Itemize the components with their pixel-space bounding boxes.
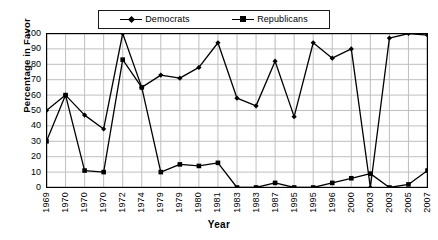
data-point-marker: [82, 168, 87, 173]
y-tick-label: 80: [19, 60, 41, 69]
data-point-marker: [349, 176, 354, 181]
data-point-marker: [197, 164, 202, 169]
data-point-marker: [101, 170, 106, 175]
data-point-marker: [234, 96, 239, 101]
chart-legend: Democrats Republicans: [98, 10, 330, 29]
x-tick-label: 1972: [118, 192, 127, 213]
data-point-marker: [120, 33, 125, 36]
data-point-marker: [406, 182, 411, 187]
legend-line-sample-square: [232, 15, 254, 24]
x-tick-label: 1979: [156, 192, 165, 213]
data-point-marker: [349, 46, 354, 51]
x-tick-label: 1987: [271, 192, 280, 213]
data-point-marker: [254, 185, 259, 188]
legend-label-democrats: Democrats: [145, 15, 189, 24]
legend-line-sample-diamond: [120, 15, 142, 24]
data-point-marker: [425, 168, 428, 173]
y-tick-label: 100: [19, 29, 41, 38]
data-point-marker: [311, 185, 316, 188]
line-chart: Democrats Republicans Percentage in Favo…: [0, 0, 438, 240]
plot-svg: [46, 33, 428, 188]
y-tick-label: 70: [19, 75, 41, 84]
y-tick-label: 90: [19, 44, 41, 53]
data-point-marker: [292, 185, 297, 188]
legend-label-republicans: Republicans: [257, 15, 308, 24]
x-tick-label: 2003: [385, 192, 394, 213]
x-tick-label: 2005: [404, 192, 413, 213]
y-tick-label: 10: [19, 168, 41, 177]
x-tick-label: 2000: [347, 192, 356, 213]
x-tick-label: 1983: [252, 192, 261, 213]
x-tick-label: 1980: [194, 192, 203, 213]
y-tick-label: 60: [19, 91, 41, 100]
data-point-marker: [387, 185, 392, 188]
x-tick-label: 1970: [61, 192, 70, 213]
y-tick-label: 0: [19, 183, 41, 192]
data-point-marker: [120, 57, 125, 62]
x-axis-title: Year: [0, 219, 438, 230]
x-tick-label: 1981: [213, 192, 222, 213]
x-tick-label: 1995: [290, 192, 299, 213]
data-point-marker: [235, 185, 240, 188]
y-tick-label: 40: [19, 121, 41, 130]
data-point-marker: [253, 103, 258, 108]
data-point-marker: [368, 171, 373, 176]
y-tick-label: 50: [19, 106, 41, 115]
x-tick-label: 2007: [423, 192, 432, 213]
y-tick-label: 20: [19, 152, 41, 161]
x-tick-label: 1969: [42, 192, 51, 213]
data-point-marker: [159, 170, 164, 175]
data-point-marker: [330, 181, 335, 186]
x-tick-label: 1979: [175, 192, 184, 213]
diamond-marker-icon: [128, 16, 135, 23]
x-tick-label: 1995: [309, 192, 318, 213]
data-point-marker: [139, 85, 144, 90]
x-tick-label: 1970: [99, 192, 108, 213]
x-tick-label: 1996: [328, 192, 337, 213]
data-point-marker: [387, 36, 392, 41]
plot-area: [46, 33, 428, 188]
x-tick-label: 1970: [80, 192, 89, 213]
legend-entry-republicans: Republicans: [232, 15, 308, 24]
data-point-marker: [368, 185, 373, 188]
square-marker-icon: [240, 16, 246, 22]
y-tick-label: 30: [19, 137, 41, 146]
data-point-marker: [63, 93, 68, 98]
data-point-marker: [178, 162, 183, 167]
data-point-marker: [292, 114, 297, 119]
data-point-marker: [273, 181, 278, 186]
x-tick-label: 1974: [137, 192, 146, 213]
data-point-marker: [273, 59, 278, 64]
data-point-marker: [46, 139, 49, 144]
legend-entry-democrats: Democrats: [120, 15, 189, 24]
x-tick-label: 2003: [366, 192, 375, 213]
x-tick-label: 1983: [233, 192, 242, 213]
data-point-marker: [216, 161, 221, 166]
